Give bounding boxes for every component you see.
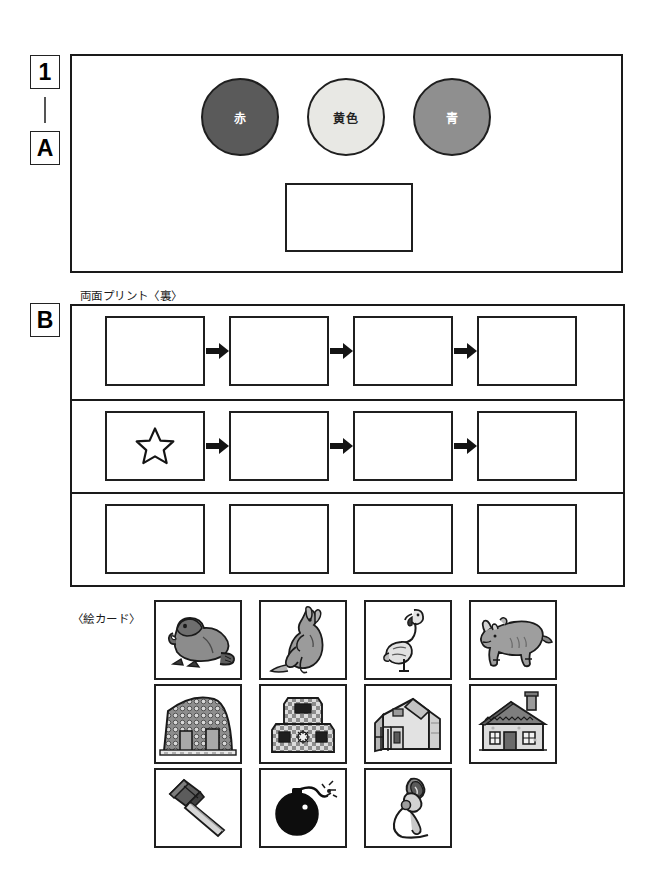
sequence-row: [72, 492, 623, 585]
picture-card-grid: [154, 600, 576, 852]
star-icon: [134, 426, 176, 466]
sequence-cell[interactable]: [353, 411, 453, 481]
beaver-icon: [159, 609, 237, 671]
picture-card-flamingo[interactable]: [364, 600, 452, 680]
section-b-panel: [70, 304, 625, 587]
picture-card-cottage[interactable]: [469, 684, 557, 764]
color-circle-red-label: 赤: [234, 109, 247, 126]
picture-card-kangaroo[interactable]: [259, 600, 347, 680]
sequence-cell[interactable]: [477, 316, 577, 386]
picture-cards-label: 〈絵カード〉: [72, 610, 140, 626]
sequence-row: [72, 306, 623, 398]
kangaroo-icon: [266, 605, 340, 675]
sequence-cell[interactable]: [105, 504, 205, 574]
arrow-right-icon: [206, 342, 230, 360]
mallet-icon: [160, 776, 236, 840]
picture-card-stone-house[interactable]: [154, 684, 242, 764]
microphone-icon: [373, 775, 443, 841]
sequence-cell[interactable]: [353, 504, 453, 574]
arrow-right-icon: [206, 437, 230, 455]
bomb-icon: [267, 778, 339, 838]
picture-card-row: [154, 768, 576, 848]
arrow-right-icon: [330, 437, 354, 455]
sequence-cell[interactable]: [477, 504, 577, 574]
sequence-cell[interactable]: [353, 316, 453, 386]
sequence-cell-star[interactable]: [105, 411, 205, 481]
picture-card-row: [154, 600, 576, 680]
color-circle-yellow-label: 黄色: [333, 109, 359, 126]
tiled-tower-icon: [268, 690, 338, 758]
section-a-tag: A: [30, 131, 60, 165]
picture-card-modern-building[interactable]: [364, 684, 452, 764]
question-number-tag: 1: [30, 55, 60, 89]
sequence-cell[interactable]: [229, 504, 329, 574]
picture-card-bomb[interactable]: [259, 768, 347, 848]
color-circle-red[interactable]: 赤: [201, 78, 279, 156]
sheet-back-label: 両面プリント〈裏〉: [80, 287, 183, 303]
sequence-cell[interactable]: [477, 411, 577, 481]
section-b-tag: B: [30, 303, 60, 337]
answer-slot[interactable]: [285, 183, 413, 252]
picture-card-rhinoceros[interactable]: [469, 600, 557, 680]
color-circle-blue-label: 青: [446, 109, 459, 126]
stone-house-icon: [158, 691, 238, 757]
arrow-right-icon: [454, 437, 478, 455]
color-circle-blue[interactable]: 青: [413, 78, 491, 156]
cottage-icon: [473, 690, 553, 758]
sequence-row: [72, 399, 623, 491]
sequence-cell[interactable]: [105, 316, 205, 386]
worksheet-page: 1 A B 両面プリント〈表〉 赤 黄色 青 両面プリント〈裏〉: [0, 0, 652, 879]
sequence-cell[interactable]: [229, 316, 329, 386]
picture-card-row: [154, 684, 576, 764]
picture-card-mallet[interactable]: [154, 768, 242, 848]
tag-divider-dash: [44, 97, 46, 123]
picture-card-beaver[interactable]: [154, 600, 242, 680]
color-circle-yellow[interactable]: 黄色: [307, 78, 385, 156]
arrow-right-icon: [330, 342, 354, 360]
flamingo-icon: [382, 605, 434, 675]
modern-building-icon: [369, 693, 447, 755]
rhinoceros-icon: [473, 610, 553, 670]
arrow-right-icon: [454, 342, 478, 360]
sequence-cell[interactable]: [229, 411, 329, 481]
picture-card-tiled-tower[interactable]: [259, 684, 347, 764]
picture-card-microphone[interactable]: [364, 768, 452, 848]
